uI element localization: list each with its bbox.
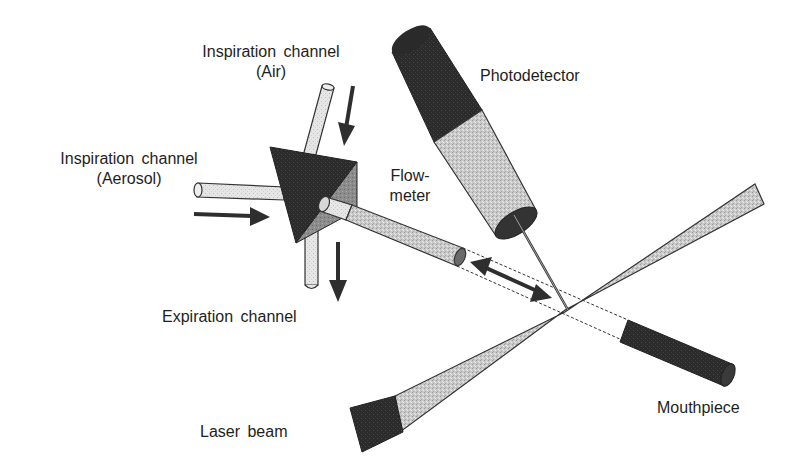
label-flowmeter-line1: Flow- bbox=[380, 166, 440, 186]
inspiration-air-tube bbox=[303, 83, 334, 158]
label-inspiration-aerosol: Inspiration channel (Aerosol) bbox=[38, 149, 220, 189]
arrow-bidirectional-flow-icon bbox=[470, 257, 552, 302]
mixing-cube bbox=[270, 147, 357, 243]
label-inspiration-air: Inspiration channel (Air) bbox=[180, 42, 362, 82]
label-photodetector: Photodetector bbox=[480, 66, 580, 86]
label-laser-beam: Laser beam bbox=[200, 422, 288, 442]
label-flowmeter: Flow- meter bbox=[380, 166, 440, 206]
label-inspiration-air-line1: Inspiration channel bbox=[180, 42, 362, 62]
arrow-aerosol-in-icon bbox=[194, 207, 270, 226]
label-inspiration-aerosol-line2: (Aerosol) bbox=[38, 169, 220, 189]
label-expiration-channel: Expiration channel bbox=[162, 307, 297, 327]
expiration-tube bbox=[305, 230, 318, 289]
label-inspiration-aerosol-line1: Inspiration channel bbox=[38, 149, 220, 169]
arrow-air-in-icon bbox=[338, 86, 355, 146]
label-flowmeter-line2: meter bbox=[380, 186, 440, 206]
label-mouthpiece: Mouthpiece bbox=[657, 398, 740, 418]
arrow-expiration-out-icon bbox=[329, 242, 347, 302]
mouthpiece bbox=[620, 320, 738, 388]
label-inspiration-air-line2: (Air) bbox=[180, 62, 362, 82]
